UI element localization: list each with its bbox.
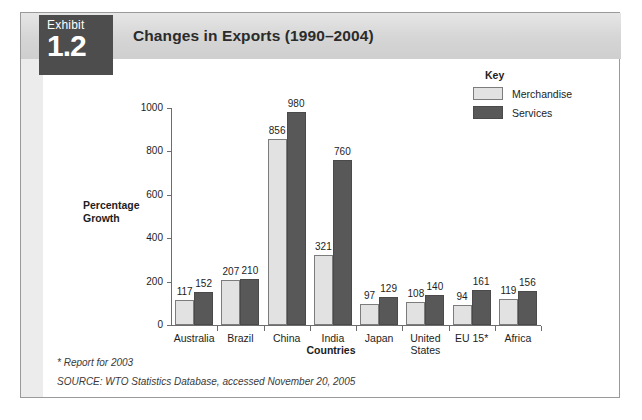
legend-swatch [473, 106, 503, 119]
bar-value-label: 980 [281, 99, 312, 109]
bar-serv [194, 292, 213, 325]
footnote-source: SOURCE: WTO Statistics Database, accesse… [57, 376, 355, 387]
y-tick-label: 1000 [129, 103, 163, 113]
bar-merch [175, 300, 194, 325]
y-tick-mark [167, 282, 172, 283]
legend: Key MerchandiseServices [473, 69, 613, 125]
bar-value-label: 140 [419, 282, 450, 292]
bar-value-label: 210 [234, 266, 265, 276]
legend-swatch [473, 87, 503, 100]
x-tick-mark [541, 326, 542, 331]
footnote-asterisk: * Report for 2003 [57, 357, 133, 368]
y-tick-mark [167, 238, 172, 239]
bar-merch [221, 280, 240, 325]
bar-serv [287, 112, 306, 325]
bar-merch [406, 302, 425, 325]
bar-merch [360, 304, 379, 325]
x-tick-mark [402, 326, 403, 331]
legend-entries: MerchandiseServices [473, 87, 613, 119]
x-tick-mark [356, 326, 357, 331]
bar-serv [333, 160, 352, 325]
exhibit-frame: Exhibit 1.2 Changes in Exports (1990–200… [20, 12, 620, 398]
bar-value-label: 156 [512, 278, 543, 288]
legend-entry: Services [473, 106, 613, 119]
bar-value-label: 760 [327, 147, 358, 157]
x-tick-mark [217, 326, 218, 331]
x-tick-mark [495, 326, 496, 331]
x-tick-mark [310, 326, 311, 331]
bar-merch [268, 139, 287, 325]
bar-value-label: 152 [188, 279, 219, 289]
bar-merch [499, 299, 518, 325]
legend-entry: Merchandise [473, 87, 613, 100]
legend-label: Merchandise [512, 88, 572, 100]
bar-serv [518, 291, 537, 325]
page-title: Changes in Exports (1990–2004) [133, 27, 374, 45]
legend-label: Services [512, 107, 552, 119]
x-tick-mark [264, 326, 265, 331]
legend-title: Key [485, 69, 613, 81]
bar-serv [472, 290, 491, 325]
bar-serv [379, 297, 398, 325]
bar-merch [314, 255, 333, 325]
y-tick-label: 600 [129, 190, 163, 200]
bar-serv [240, 279, 259, 325]
y-tick-label: 400 [129, 233, 163, 243]
y-tick-mark [167, 108, 172, 109]
y-tick-mark [167, 325, 172, 326]
x-tick-mark [449, 326, 450, 331]
chart-plot-area: PercentageGrowth Countries 0200400600800… [21, 59, 621, 399]
y-tick-mark [167, 195, 172, 196]
bar-merch [453, 305, 472, 325]
y-axis-title: PercentageGrowth [83, 199, 163, 224]
y-tick-label: 200 [129, 277, 163, 287]
bar-serv [425, 295, 444, 325]
y-tick-label: 800 [129, 146, 163, 156]
y-tick-mark [167, 151, 172, 152]
y-tick-label: 0 [129, 320, 163, 330]
category-label: Africa [482, 332, 554, 344]
exhibit-badge-number: 1.2 [47, 31, 107, 61]
